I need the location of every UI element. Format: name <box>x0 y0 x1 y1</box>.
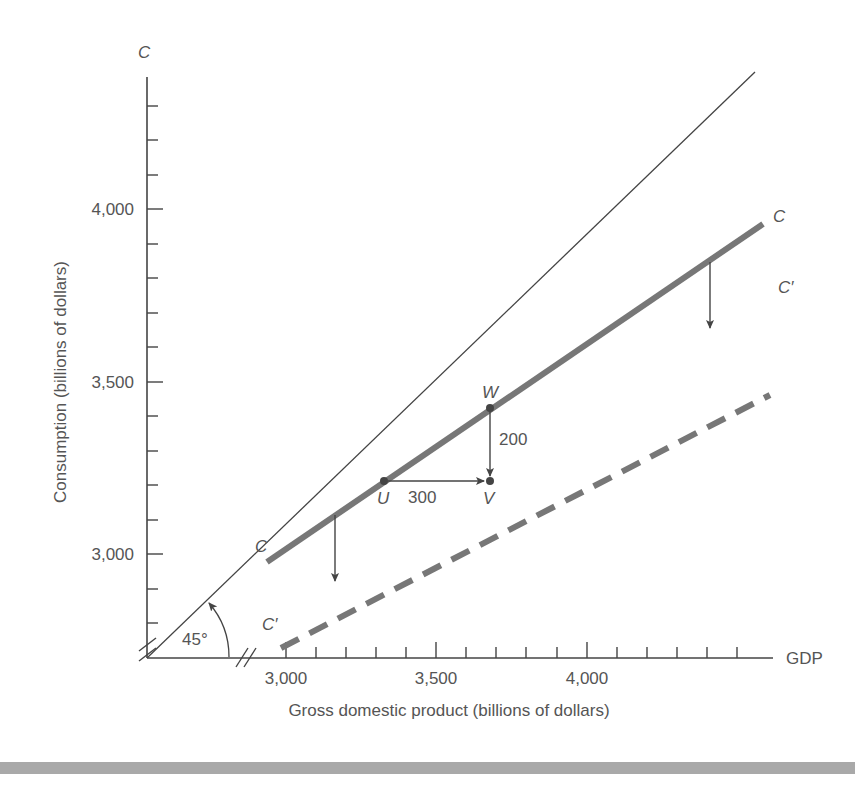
x-tick-3500: 3,500 <box>415 669 458 688</box>
y-tick-3500: 3,500 <box>91 373 134 392</box>
x-axis-title: Gross domestic product (billions of doll… <box>288 701 609 720</box>
point-v-label: V <box>483 489 496 508</box>
y-tick-3000: 3,000 <box>91 545 134 564</box>
c-line-label-right: C <box>773 207 786 226</box>
angle-arc-icon <box>209 603 229 657</box>
c-prime-label-left: C′ <box>262 615 278 634</box>
y-axis-top-label: C <box>138 43 151 62</box>
45-degree-line <box>147 72 755 658</box>
consumption-line-c <box>267 224 763 562</box>
y-tick-4000: 4,000 <box>91 200 134 219</box>
horizontal-shift-label: 300 <box>408 488 436 507</box>
point-u <box>380 477 388 485</box>
point-u-label: U <box>377 489 390 508</box>
angle-label: 45° <box>182 630 208 649</box>
c-line-label-left: C <box>255 537 268 556</box>
y-axis <box>139 77 163 661</box>
point-w <box>486 404 494 412</box>
x-axis-end-label: GDP <box>786 649 823 668</box>
y-axis-title: Consumption (billions of dollars) <box>51 261 70 503</box>
x-axis <box>147 642 773 667</box>
consumption-function-chart: C GDP 4,000 3,500 3,000 3,000 3,500 4,00… <box>0 0 855 788</box>
x-tick-3000: 3,000 <box>265 669 308 688</box>
bottom-divider-bar <box>0 762 855 774</box>
x-tick-4000: 4,000 <box>566 669 609 688</box>
point-v <box>486 477 494 485</box>
c-prime-label-right: C′ <box>778 278 794 297</box>
point-w-label: W <box>482 383 500 402</box>
vertical-shift-label: 200 <box>499 430 527 449</box>
